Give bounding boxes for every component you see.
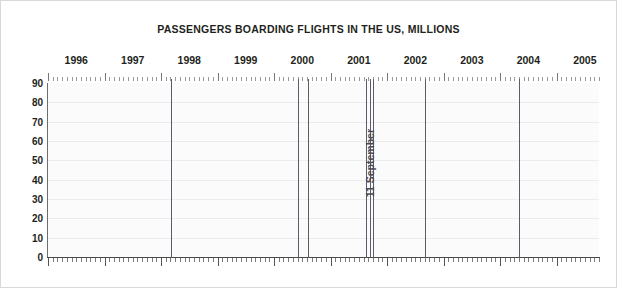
x-tick-minor: [170, 258, 171, 262]
x-tick-top: [53, 77, 54, 81]
x-tick-top-major: [105, 73, 106, 81]
x-tick-top-major: [218, 73, 219, 81]
x-tick-top: [76, 77, 77, 81]
x-tick-top: [316, 77, 317, 81]
x-tick-minor: [147, 258, 148, 262]
y-tick-label: 40: [3, 174, 43, 185]
x-tick-top: [137, 77, 138, 81]
x-tick-top: [302, 77, 303, 81]
y-tick-label: 0: [3, 252, 43, 263]
x-tick-top: [175, 77, 176, 81]
x-tick-minor: [241, 258, 242, 262]
x-tick-minor: [420, 258, 421, 262]
x-tick-top-major: [500, 73, 501, 81]
x-tick-top: [123, 77, 124, 81]
x-tick-minor: [561, 258, 562, 262]
x-tick-top: [128, 77, 129, 81]
x-tick-minor: [137, 258, 138, 262]
x-tick-minor: [425, 258, 426, 262]
x-tick-top: [199, 77, 200, 81]
x-tick-top: [180, 77, 181, 81]
x-tick-minor: [472, 258, 473, 262]
x-tick-minor: [279, 258, 280, 262]
x-tick-top: [251, 77, 252, 81]
x-tick-top-major: [48, 73, 49, 81]
x-tick-top: [552, 77, 553, 81]
x-tick-minor: [232, 258, 233, 262]
x-tick-top: [462, 77, 463, 81]
x-tick-minor: [364, 258, 365, 262]
x-tick-top: [340, 77, 341, 81]
x-tick-minor: [486, 258, 487, 262]
x-tick-minor: [462, 258, 463, 262]
x-tick-minor: [491, 258, 492, 262]
x-tick-minor: [283, 258, 284, 262]
x-tick-label: 2002: [404, 54, 427, 66]
x-tick-top: [472, 77, 473, 81]
x-tick-minor: [119, 258, 120, 262]
x-tick-top: [255, 77, 256, 81]
x-tick-minor: [86, 258, 87, 262]
x-tick-top: [213, 77, 214, 81]
x-tick-major: [331, 258, 332, 266]
x-tick-minor: [180, 258, 181, 262]
x-tick-minor: [222, 258, 223, 262]
x-tick-minor: [406, 258, 407, 262]
x-tick-major: [274, 258, 275, 266]
gridline: [48, 199, 599, 200]
x-tick-major: [218, 258, 219, 266]
x-tick-top: [312, 77, 313, 81]
x-tick-top: [415, 77, 416, 81]
x-tick-minor: [590, 258, 591, 262]
y-tick-label: 60: [3, 136, 43, 147]
x-tick-top-major: [557, 73, 558, 81]
plot-area: [48, 83, 599, 257]
gridline: [48, 238, 599, 239]
x-tick-top: [166, 77, 167, 81]
x-tick-minor: [396, 258, 397, 262]
chart-frame: PASSENGERS BOARDING FLIGHTS IN THE US, M…: [0, 0, 617, 288]
x-tick-minor: [349, 258, 350, 262]
x-tick-top: [232, 77, 233, 81]
x-tick-minor: [599, 258, 600, 262]
x-tick-label: 2005: [573, 54, 596, 66]
chart-title: PASSENGERS BOARDING FLIGHTS IN THE US, M…: [1, 23, 616, 35]
x-tick-minor: [434, 258, 435, 262]
x-tick-minor: [533, 258, 534, 262]
x-tick-label: 2003: [460, 54, 483, 66]
x-tick-minor: [566, 258, 567, 262]
x-tick-minor: [585, 258, 586, 262]
x-tick-top-major: [274, 73, 275, 81]
x-tick-minor: [335, 258, 336, 262]
x-tick-minor: [142, 258, 143, 262]
x-tick-top: [524, 77, 525, 81]
x-tick-minor: [458, 258, 459, 262]
x-tick-top: [156, 77, 157, 81]
x-tick-minor: [100, 258, 101, 262]
x-tick-top: [100, 77, 101, 81]
x-tick-minor: [580, 258, 581, 262]
x-tick-minor: [411, 258, 412, 262]
x-tick-minor: [114, 258, 115, 262]
x-tick-minor: [81, 258, 82, 262]
x-tick-label: 1996: [65, 54, 88, 66]
x-tick-minor: [373, 258, 374, 262]
x-tick-minor: [524, 258, 525, 262]
x-tick-minor: [251, 258, 252, 262]
x-tick-top: [354, 77, 355, 81]
x-tick-top: [364, 77, 365, 81]
x-tick-top-major: [444, 73, 445, 81]
x-tick-minor: [477, 258, 478, 262]
x-tick-major: [557, 258, 558, 266]
x-tick-minor: [227, 258, 228, 262]
x-tick-top: [420, 77, 421, 81]
x-tick-top: [396, 77, 397, 81]
x-tick-minor: [538, 258, 539, 262]
plot-background: [48, 83, 599, 257]
x-tick-top: [571, 77, 572, 81]
x-tick-top: [119, 77, 120, 81]
y-tick-label: 20: [3, 213, 43, 224]
y-tick-label: 80: [3, 97, 43, 108]
x-tick-label: 2000: [291, 54, 314, 66]
x-tick-top: [505, 77, 506, 81]
